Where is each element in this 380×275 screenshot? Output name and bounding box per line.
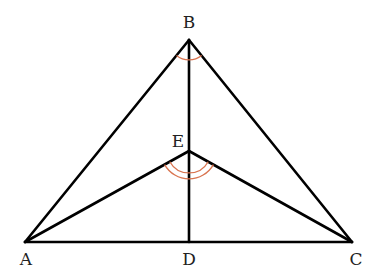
segment-bc	[189, 40, 352, 242]
label-e: E	[172, 131, 184, 151]
geometry-diagram: B E A D C	[0, 0, 380, 275]
label-b: B	[183, 12, 196, 32]
label-c: C	[349, 249, 362, 269]
label-a: A	[19, 249, 33, 269]
label-d: D	[182, 249, 196, 269]
segment-ae	[25, 151, 189, 242]
segment-ab	[25, 40, 189, 242]
